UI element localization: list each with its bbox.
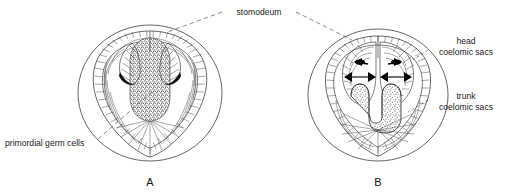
panel-a-caption: A — [146, 176, 154, 188]
leader-head-sacs — [413, 50, 428, 60]
figure-embryo-cross-sections: A — [0, 0, 521, 194]
label-stomodeum: stomodeum — [237, 7, 282, 17]
leader-stomodeum-to-b — [296, 12, 352, 40]
panel-a: A — [78, 25, 222, 188]
panel-b-caption: B — [374, 176, 381, 188]
panel-b-trunk-coelomic-sac — [351, 84, 401, 133]
label-trunk-coelomic-sacs-line1: trunk — [456, 91, 476, 101]
leader-stomodeum-to-a — [165, 12, 222, 33]
label-head-coelomic-sacs-line2: coelomic sacs — [439, 47, 493, 57]
label-trunk-coelomic-sacs-line2: coelomic sacs — [439, 102, 493, 112]
panel-a-radial-lines — [116, 120, 184, 154]
label-head-coelomic-sacs-line1: head — [456, 36, 475, 46]
label-primordial-germ-cells: primordial germ cells — [5, 138, 84, 148]
panel-b: B — [308, 29, 448, 188]
